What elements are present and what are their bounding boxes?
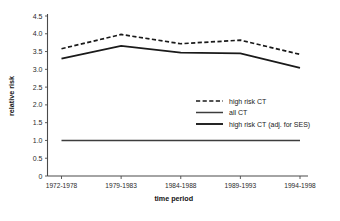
y-tick-label: 3.5 [33,48,43,55]
y-axis-title: relative risk [7,76,16,116]
x-tick-label: 1994-1998 [284,182,316,189]
y-tick-label: 0.5 [33,155,43,162]
relative-risk-line-chart: 00.51.01.52.02.53.03.54.04.51972-1978197… [0,0,340,221]
legend-label-2: high risk CT (adj. for SES) [229,121,310,129]
series-line-2 [62,46,301,68]
x-tick-label: 1979-1983 [105,182,137,189]
x-tick-label: 1989-1993 [225,182,257,189]
y-tick-label: 0 [39,173,43,180]
legend-label-1: all CT [229,109,248,116]
y-tick-label: 1.5 [33,119,43,126]
legend-label-0: high risk CT [229,98,267,106]
x-tick-label: 1984-1988 [165,182,197,189]
y-tick-label: 2.5 [33,84,43,91]
x-tick-label: 1972-1978 [46,182,78,189]
y-tick-label: 2.0 [33,101,43,108]
y-tick-label: 4.5 [33,13,43,20]
y-tick-label: 1.0 [33,137,43,144]
chart-canvas: 00.51.01.52.02.53.03.54.04.51972-1978197… [0,0,340,221]
y-tick-label: 4.0 [33,30,43,37]
x-axis-title: time period [154,194,193,203]
y-tick-label: 3.0 [33,66,43,73]
